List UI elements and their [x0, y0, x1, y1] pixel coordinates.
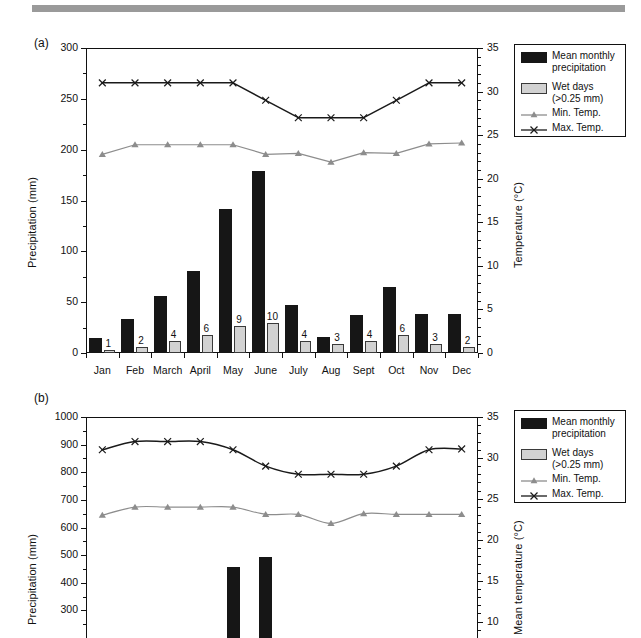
panel-a-max-temp-marker	[262, 97, 269, 104]
panel-b-y2tick-minor	[478, 507, 481, 508]
panel-b-ytick-minor	[83, 514, 86, 515]
panel-a-y2tick-minor	[478, 83, 481, 84]
panel-b-ytick-major	[81, 500, 86, 501]
panel-b-y2tick-minor	[478, 532, 481, 533]
panel-a-wet-days-bar	[169, 341, 181, 353]
panel-a-wet-days-bar	[332, 344, 344, 353]
panel-a-month-label: Jan	[86, 364, 119, 376]
panel-a-y2tick-major	[478, 48, 483, 49]
min-temp-marker-icon	[521, 109, 547, 120]
panel-a-y2tick-label: 20	[487, 172, 499, 184]
panel-b-y2tick-label: 35	[487, 410, 499, 422]
panel-b-max-temp-line	[102, 441, 461, 475]
panel-a-precipitation-bar	[89, 338, 102, 353]
panel-b-ytick-label: 900	[36, 438, 78, 450]
panel-a-wet-days-value: 9	[236, 314, 242, 325]
panel-b-legend-label-1: Wet days	[552, 447, 603, 459]
panel-b-y2tick-major	[478, 417, 483, 418]
panel-a-ytick-label: 250	[36, 92, 78, 104]
panel-a-y2tick-minor	[478, 214, 481, 215]
panel-a-precipitation-bar	[448, 314, 461, 353]
panel-a-ytick-minor	[83, 277, 86, 278]
figure-page: (a) Precipitation (mm) Temperature (°C) …	[0, 0, 641, 638]
panel-a-y2tick-minor	[478, 109, 481, 110]
panel-b-y2tick-label: 25	[487, 492, 499, 504]
panel-a-y2tick-minor	[478, 275, 481, 276]
panel-b-ytick-major	[81, 445, 86, 446]
panel-a-legend-label-1-line2: (>0.25 mm)	[552, 93, 603, 105]
panel-b-legend-label-0: Mean monthly	[552, 416, 615, 428]
panel-b-ytick-minor	[83, 569, 86, 570]
panel-a-y2tick-minor	[478, 57, 481, 58]
panel-a-ytick-minor	[83, 73, 86, 74]
panel-a-xtick	[315, 353, 316, 358]
panel-b-y2tick-minor	[478, 573, 481, 574]
panel-a-xtick	[151, 353, 152, 358]
max-temp-marker-icon	[521, 490, 547, 501]
panel-b-y2tick-minor	[478, 491, 481, 492]
panel-a-month-label: Dec	[445, 364, 478, 376]
panel-a-precipitation-bar	[252, 171, 265, 353]
panel-b-ytick-major	[81, 583, 86, 584]
panel-a-month-label: April	[184, 364, 217, 376]
panel-b-legend-label-0-line2: precipitation	[552, 428, 615, 440]
panel-a-month-label: March	[151, 364, 184, 376]
panel-a-month-label: May	[217, 364, 250, 376]
panel-a-ytick-label: 100	[36, 244, 78, 256]
panel-a-y2tick-major	[478, 222, 483, 223]
panel-a-ytick-minor	[83, 328, 86, 329]
panel-a-ytick-major	[81, 48, 86, 49]
panel-a-xtick	[380, 353, 381, 358]
panel-a-wet-days-value: 4	[367, 329, 373, 340]
panel-b-legend-label-2: Min. Temp.	[552, 473, 601, 485]
panel-a-ytick-minor	[83, 226, 86, 227]
panel-b-y2tick-minor	[478, 630, 481, 631]
panel-a-wet-days-bar	[267, 323, 279, 353]
panel-a-y2tick-minor	[478, 248, 481, 249]
panel-a-y2tick-label: 10	[487, 259, 499, 271]
panel-a-y2tick-label: 15	[487, 215, 499, 227]
panel-a-xtick	[347, 353, 348, 358]
panel-a-wet-days-bar	[365, 341, 377, 353]
panel-b-ytick-label: 700	[36, 493, 78, 505]
panel-a-y2tick-minor	[478, 301, 481, 302]
panel-a-ytick-label: 150	[36, 194, 78, 206]
panel-b-y2tick-minor	[478, 515, 481, 516]
panel-a-ytick-major	[81, 302, 86, 303]
panel-b-ytick-label: 400	[36, 576, 78, 588]
panel-a-max-temp-marker	[393, 97, 400, 104]
panel-b-ytick-major	[81, 610, 86, 611]
panel-b-y2tick-minor	[478, 564, 481, 565]
panel-b-ytick-label: 800	[36, 465, 78, 477]
panel-a-y2tick-label: 0	[487, 346, 493, 358]
panel-a-legend-item-1: Wet days(>0.25 mm)	[521, 81, 603, 104]
panel-b-y2tick-minor	[478, 474, 481, 475]
panel-a-wet-days-value: 10	[267, 311, 278, 322]
panel-a-wet-days-value: 4	[302, 329, 308, 340]
panel-a-y2tick-minor	[478, 65, 481, 66]
panel-a-y2tick-minor	[478, 126, 481, 127]
panel-a-xtick	[86, 353, 87, 358]
panel-b-ytick-minor	[83, 458, 86, 459]
panel-b-y2tick-major	[478, 540, 483, 541]
panel-a-month-label: Oct	[380, 364, 413, 376]
panel-a-precipitation-bar	[187, 271, 200, 353]
panel-a-precipitation-bar	[383, 287, 396, 353]
panel-a-ytick-label: 300	[36, 41, 78, 53]
panel-b-legend-label-3: Max. Temp.	[552, 488, 604, 500]
panel-a-precipitation-bar	[415, 314, 428, 353]
panel-a-ytick-major	[81, 251, 86, 252]
panel-b-y2tick-minor	[478, 442, 481, 443]
panel-b-y2tick-minor	[478, 523, 481, 524]
precipitation-swatch-icon	[521, 418, 547, 429]
panel-b-ytick-major	[81, 417, 86, 418]
panel-a-ytick-label: 200	[36, 143, 78, 155]
panel-a-xtick	[119, 353, 120, 358]
panel-a-wet-days-value: 1	[106, 338, 112, 349]
panel-a-y2tick-major	[478, 309, 483, 310]
panel-a-precipitation-bar	[154, 296, 167, 353]
panel-a-wet-days-value: 6	[204, 323, 210, 334]
panel-a-y2tick-minor	[478, 187, 481, 188]
panel-b-max-temp-marker	[262, 463, 269, 470]
panel-b-ytick-minor	[83, 541, 86, 542]
